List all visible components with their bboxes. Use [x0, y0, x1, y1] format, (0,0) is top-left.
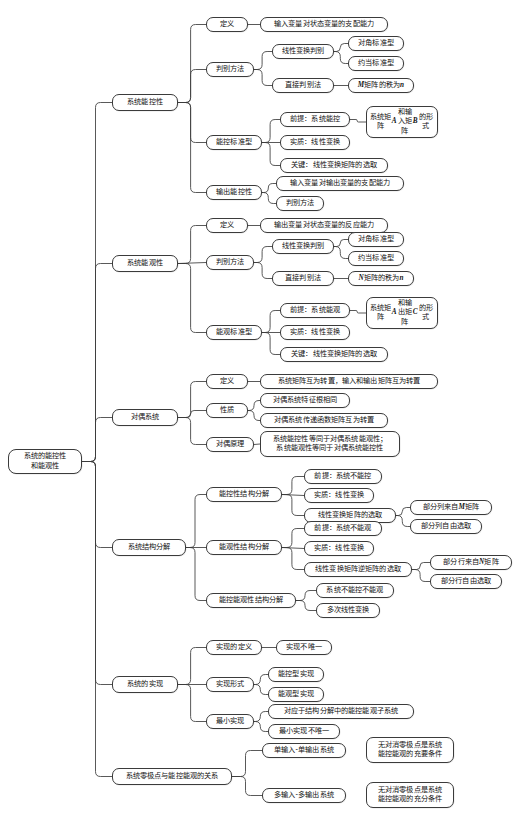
mindmap-node-b3c2[interactable]: 性质	[206, 403, 248, 418]
mindmap-edge-b4c1-to-b4c1g2	[282, 495, 304, 496]
mindmap-node-b2c2g2[interactable]: 直接判别法	[272, 271, 334, 286]
mindmap-node-b5c3g1[interactable]: 对应于结构分解中的能控能观子系统	[268, 704, 414, 719]
mindmap-node-b4c1g3h2[interactable]: 部分列自由选取	[410, 519, 482, 534]
mindmap-node-b3c1[interactable]: 定义	[206, 374, 248, 389]
mindmap-node-b3c2g2[interactable]: 对偶系统传递函数矩阵互为转置	[260, 413, 388, 428]
mindmap-node-b6c1g1[interactable]: 无对消零极点是系统 能控能观的充要条件	[366, 737, 454, 763]
mindmap-edge-b3c2-to-b3c2g1	[248, 401, 260, 411]
mindmap-node-b2c2g1h1[interactable]: 对角标准型	[348, 232, 404, 247]
mindmap-node-b5[interactable]: 系统的实现	[112, 676, 178, 693]
mindmap-canvas: 系统的能控性 和能观性系统能控性定义输入变量对状态变量的支配能力判别方法线性变换…	[0, 0, 528, 817]
mindmap-node-b2c3g2[interactable]: 实质：线性变换	[280, 325, 350, 340]
mindmap-node-b3c2g1[interactable]: 对偶系统特征根相同	[260, 393, 350, 408]
mindmap-edge-b4c1-to-b4c1g3	[282, 495, 304, 516]
mindmap-node-b1c4[interactable]: 输出能控性	[206, 185, 262, 200]
mindmap-node-b1c3g2[interactable]: 实质：线性变换	[280, 135, 350, 150]
mindmap-edge-b3-to-b3c2	[178, 411, 206, 418]
mindmap-node-b4[interactable]: 系统结构分解	[112, 539, 186, 556]
mindmap-node-b2c2g1[interactable]: 线性变换判别	[272, 239, 334, 254]
mindmap-edge-b5c3-to-b5c3g2	[254, 722, 268, 732]
mindmap-node-b4c1[interactable]: 能控性结构分解	[206, 487, 282, 502]
mindmap-node-b3c3[interactable]: 对偶原理	[206, 437, 254, 452]
mindmap-edge-b4c1g3-to-b4c1g3h1	[396, 508, 410, 516]
mindmap-edge-b2c2-to-b2c2g2	[254, 263, 272, 279]
mindmap-node-b4c3g1[interactable]: 系统不能控不能观	[316, 583, 394, 598]
mindmap-edge-b4c3-to-b4c3g1	[296, 591, 316, 601]
mindmap-edge-root-to-b2	[82, 264, 112, 462]
mindmap-node-b5c1g1[interactable]: 实现不唯一	[276, 640, 332, 655]
mindmap-node-b1c1g1[interactable]: 输入变量对状态变量的支配能力	[260, 17, 388, 32]
mindmap-edge-b6-to-b6c1	[232, 751, 262, 777]
mindmap-node-b3c1g1[interactable]: 系统矩阵互为转置，输入和输出矩阵互为转置	[260, 374, 438, 389]
mindmap-node-b4c1g1[interactable]: 前提：系统不能控	[304, 469, 382, 484]
mindmap-node-b5c3[interactable]: 最小实现	[206, 714, 254, 729]
mindmap-node-b4c2g1[interactable]: 前提：系统不能观	[304, 521, 382, 536]
mindmap-node-b1c3[interactable]: 能控标准型	[206, 135, 262, 150]
mindmap-node-b4c3[interactable]: 能控能观性结构分解	[206, 593, 296, 608]
mindmap-node-b1c2[interactable]: 判别方法	[206, 62, 254, 77]
mindmap-node-b3c3g1[interactable]: 系统能控性等同于对偶系统能观性； 系统能观性等同于对偶系统能控性	[260, 431, 400, 457]
mindmap-edge-b1c4-to-b1c4g1	[262, 184, 276, 193]
mindmap-node-b2c3g1[interactable]: 前提：系统能观	[280, 303, 350, 318]
mindmap-edge-b2c2g1-to-b2c2g1h2	[334, 247, 348, 259]
mindmap-node-b4c1g2[interactable]: 实质：线性变换	[304, 488, 374, 503]
mindmap-edge-b4c2-to-b4c2g3	[282, 548, 304, 570]
mindmap-node-b2c3g3[interactable]: 关键：线性变换矩阵的选取	[280, 347, 388, 362]
mindmap-node-b2c2g1h2[interactable]: 约当标准型	[348, 251, 404, 266]
mindmap-node-b1c3g1h1[interactable]: 系统矩阵 A 和输入矩阵 B 的形式	[366, 106, 438, 138]
mindmap-node-b1c4g2[interactable]: 判别方法	[276, 196, 324, 211]
mindmap-node-b4c2g3h2[interactable]: 部分行自由选取	[430, 574, 502, 589]
mindmap-edge-b6-to-b6c2	[232, 777, 262, 796]
mindmap-edge-b1c2-to-b1c2g2	[254, 70, 272, 86]
mindmap-edge-b4-to-b4c3	[186, 548, 206, 601]
mindmap-node-b1c3g3[interactable]: 关键：线性变换矩阵的选取	[280, 158, 388, 173]
mindmap-edge-b2-to-b2c1	[178, 226, 206, 264]
mindmap-node-b1[interactable]: 系统能控性	[112, 94, 178, 111]
mindmap-node-b2[interactable]: 系统能观性	[112, 255, 178, 272]
mindmap-node-b1c2g1h1[interactable]: 对角标准型	[348, 36, 404, 51]
mindmap-node-b6c2[interactable]: 多输入-多输出系统	[262, 788, 346, 803]
mindmap-connector-layer	[0, 0, 528, 817]
mindmap-node-b1c2g1h2[interactable]: 约当标准型	[348, 56, 404, 71]
mindmap-edge-b2c2g1-to-b2c2g1h1	[334, 240, 348, 247]
mindmap-node-b5c2g2[interactable]: 能观型实现	[268, 687, 324, 702]
mindmap-node-b1c4g1[interactable]: 输入变量对输出变量的支配能力	[276, 176, 404, 191]
mindmap-node-b5c1[interactable]: 实现的定义	[206, 640, 262, 655]
mindmap-node-b4c3g2[interactable]: 多次线性变换	[316, 603, 380, 618]
mindmap-edge-root-to-b4	[82, 462, 112, 548]
mindmap-root-node[interactable]: 系统的能控性 和能观性	[8, 449, 82, 474]
mindmap-node-b1c2g2h1[interactable]: M 矩阵的秩为 n	[348, 78, 414, 93]
mindmap-node-b4c2g2[interactable]: 实质：线性变换	[304, 541, 374, 556]
mindmap-node-b2c1[interactable]: 定义	[206, 218, 248, 233]
mindmap-node-b2c3[interactable]: 能观标准型	[206, 325, 262, 340]
mindmap-node-b4c2[interactable]: 能观性结构分解	[206, 540, 282, 555]
mindmap-node-b2c1g1[interactable]: 输出变量对状态变量的反应能力	[260, 218, 388, 233]
mindmap-edge-b4c2g3-to-b4c2g3h1	[412, 563, 430, 570]
mindmap-node-b3[interactable]: 对偶系统	[112, 409, 178, 426]
mindmap-node-b1c2g1[interactable]: 线性变换判别	[272, 44, 334, 59]
mindmap-edge-root-to-b1	[82, 103, 112, 462]
mindmap-edge-b2c3g1-to-b2c3g1h1	[350, 311, 366, 314]
mindmap-node-b5c2[interactable]: 实现形式	[206, 677, 254, 692]
mindmap-edge-b1c3-to-b1c3g1	[262, 120, 280, 143]
mindmap-node-b2c2g2h1[interactable]: N 矩阵的秩为 n	[348, 271, 414, 286]
mindmap-node-b6c2g1[interactable]: 无对消零极点是系统 能控能观的充分条件	[366, 782, 454, 808]
mindmap-node-b5c2g1[interactable]: 能控型实现	[268, 667, 324, 682]
mindmap-node-b6[interactable]: 系统零极点与能控能观的关系	[112, 768, 232, 785]
mindmap-node-b1c2g2[interactable]: 直接判别法	[272, 78, 334, 93]
mindmap-node-b6c1[interactable]: 单输入-单输出系统	[262, 743, 346, 758]
mindmap-edge-b2-to-b2c2	[178, 263, 206, 264]
mindmap-node-b4c2g3h1[interactable]: 部分行来自 N 矩阵	[430, 555, 512, 570]
mindmap-node-b1c3g1[interactable]: 前提：系统能控	[280, 112, 350, 127]
mindmap-edge-b3-to-b3c3	[178, 418, 206, 445]
mindmap-node-b2c2[interactable]: 判别方法	[206, 255, 254, 270]
mindmap-node-b2c3g1h1[interactable]: 系统矩阵 A 和输出矩阵 C 的形式	[366, 297, 438, 329]
mindmap-node-b4c1g3h1[interactable]: 部分列来自 M 矩阵	[410, 500, 492, 515]
mindmap-edge-b3c2-to-b3c2g2	[248, 411, 260, 421]
mindmap-node-b5c3g2[interactable]: 最小实现不唯一	[268, 724, 340, 739]
mindmap-edge-root-to-b6	[82, 462, 112, 777]
mindmap-edge-b1c2g1-to-b1c2g1h1	[334, 44, 348, 52]
mindmap-edge-b2c3-to-b2c3g1	[262, 311, 280, 333]
mindmap-node-b1c1[interactable]: 定义	[206, 17, 248, 32]
mindmap-node-b4c2g3[interactable]: 线性变换矩阵逆矩阵的选取	[304, 562, 412, 577]
